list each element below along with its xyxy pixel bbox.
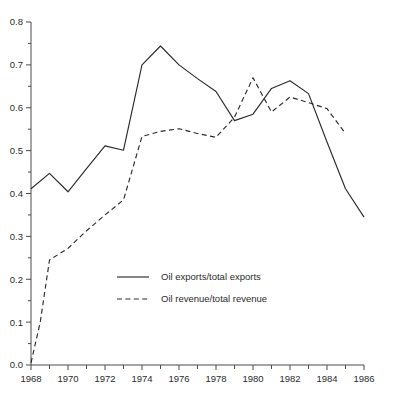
legend-label-2: Oil revenue/total revenue xyxy=(161,293,267,304)
legend-label-1: Oil exports/total exports xyxy=(161,271,261,282)
x-axis-tick-label: 1972 xyxy=(94,373,115,384)
y-axis-tick-label: 0.3 xyxy=(10,231,23,242)
y-axis-tick-label: 0.4 xyxy=(10,188,23,199)
x-axis-tick-label: 1980 xyxy=(242,373,263,384)
y-axis-tick-label: 0.0 xyxy=(10,359,23,370)
x-axis-tick-label: 1974 xyxy=(131,373,152,384)
y-axis-tick-label: 0.2 xyxy=(10,274,23,285)
y-axis-tick-label: 0.1 xyxy=(10,317,23,328)
y-axis-tick-label: 0.7 xyxy=(10,59,23,70)
chart-container: 0.00.10.20.30.40.50.60.70.8 196819701972… xyxy=(0,0,406,403)
x-axis-tick-label: 1968 xyxy=(20,373,41,384)
line-chart: 0.00.10.20.30.40.50.60.70.8 196819701972… xyxy=(0,0,406,403)
chart-background xyxy=(0,0,406,403)
y-axis-tick-label: 0.5 xyxy=(10,145,23,156)
y-axis-tick-label: 0.8 xyxy=(10,16,23,27)
x-axis-tick-label: 1976 xyxy=(168,373,189,384)
x-axis-tick-label: 1982 xyxy=(279,373,300,384)
x-axis-tick-label: 1984 xyxy=(316,373,337,384)
x-axis-tick-label: 1986 xyxy=(353,373,374,384)
x-axis-tick-label: 1978 xyxy=(205,373,226,384)
x-axis-tick-label: 1970 xyxy=(57,373,78,384)
y-axis-tick-label: 0.6 xyxy=(10,102,23,113)
